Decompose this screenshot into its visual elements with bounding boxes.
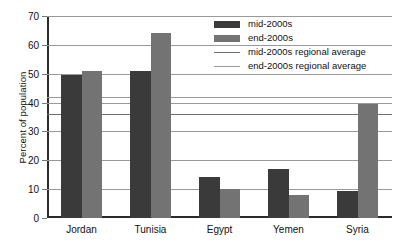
- legend-line-swatch: [213, 66, 241, 67]
- bar: [130, 71, 151, 218]
- legend-label: end-2000s: [248, 33, 293, 43]
- bar: [199, 177, 220, 218]
- y-tick-mark: [42, 16, 47, 17]
- legend-swatch: [214, 52, 240, 53]
- y-tick-mark: [42, 218, 47, 219]
- y-axis-title: Percent of population: [17, 48, 28, 188]
- legend-label: mid-2000s: [248, 19, 292, 29]
- y-tick-mark: [42, 131, 47, 132]
- x-axis-label: Tunisia: [135, 224, 167, 235]
- y-tick-mark: [42, 160, 47, 161]
- y-tick-label: 30: [28, 126, 39, 137]
- y-tick-mark: [42, 45, 47, 46]
- legend-item: mid-2000s: [213, 17, 395, 31]
- y-axis-line: [47, 16, 49, 218]
- y-tick-label: 50: [28, 68, 39, 79]
- chart-legend: mid-2000send-2000smid-2000s regional ave…: [213, 17, 395, 73]
- legend-item: end-2000s: [213, 31, 395, 45]
- bar: [220, 189, 241, 218]
- y-tick-label: 20: [28, 155, 39, 166]
- y-tick-label: 10: [28, 184, 39, 195]
- bar: [358, 104, 379, 218]
- legend-box-swatch: [213, 21, 241, 28]
- legend-box-swatch: [213, 35, 241, 42]
- x-axis-label: Egypt: [207, 224, 233, 235]
- y-tick-mark: [42, 189, 47, 190]
- bar-chart: Percent of population 010203040506070 Jo…: [0, 0, 403, 247]
- x-axis-label: Jordan: [66, 224, 97, 235]
- legend-swatch: [214, 21, 240, 28]
- legend-label: end-2000s regional average: [248, 61, 366, 71]
- legend-label: mid-2000s regional average: [248, 47, 366, 57]
- legend-item: end-2000s regional average: [213, 59, 395, 73]
- legend-swatch: [214, 66, 240, 67]
- bar: [337, 191, 358, 218]
- legend-item: mid-2000s regional average: [213, 45, 395, 59]
- bar: [61, 75, 82, 218]
- y-tick-label: 60: [28, 39, 39, 50]
- y-tick-mark: [42, 103, 47, 104]
- y-tick-label: 40: [28, 97, 39, 108]
- bar: [82, 71, 103, 218]
- bar: [151, 33, 172, 218]
- bar: [268, 169, 289, 218]
- legend-swatch: [214, 35, 240, 42]
- y-tick-label: 0: [33, 213, 39, 224]
- x-axis-label: Yemen: [273, 224, 304, 235]
- legend-line-swatch: [213, 52, 241, 53]
- x-axis-label: Syria: [346, 224, 369, 235]
- bar: [289, 195, 310, 218]
- y-tick-mark: [42, 74, 47, 75]
- y-tick-label: 70: [28, 11, 39, 22]
